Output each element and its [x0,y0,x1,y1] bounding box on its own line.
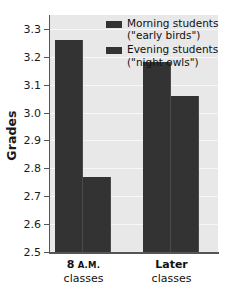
legend-swatch-icon-morning [106,21,122,28]
category-label-line2: classes [43,272,124,286]
legend-label-evening-main: Evening students [127,43,218,55]
y-axis-tick-label: 2.6 [11,218,41,231]
x-axis-line [49,252,219,254]
bar-chart: Grades 3.33.23.13.02.92.82.72.62.5 Morni… [0,0,233,304]
y-axis-tick-label: 2.9 [11,134,41,147]
legend-item-morning: Morning students ("early birds") [106,17,228,41]
legend-item-evening: Evening students ("night owls") [106,43,228,67]
legend: Morning students ("early birds") Evening… [106,17,228,70]
bar [171,96,199,252]
category-label-smallcaps: A.M. [75,260,101,270]
x-axis-category-label: 8 A.M.classes [43,258,124,286]
y-axis-tick [44,252,50,253]
y-axis-tick-label: 3.2 [11,50,41,63]
y-axis-tick-label: 2.7 [11,190,41,203]
bar [143,62,171,252]
legend-label-morning-sub: ("early birds") [127,29,218,41]
bar [55,40,83,252]
category-label-line1: 8 [67,258,75,271]
y-axis-tick-label: 2.8 [11,162,41,175]
y-axis-tick-label: 3.3 [11,22,41,35]
category-label-line1: Later [155,258,188,271]
legend-label-evening-sub: ("night owls") [127,56,218,68]
legend-label-evening: Evening students ("night owls") [127,43,218,67]
y-axis-tick-label: 2.5 [11,246,41,259]
legend-swatch-icon-evening [106,47,122,54]
bar [83,177,111,252]
category-label-line2: classes [131,272,212,286]
y-axis-tick-label: 3.0 [11,106,41,119]
legend-label-morning: Morning students ("early birds") [127,17,218,41]
legend-label-morning-main: Morning students [127,17,218,29]
y-axis-tick-label: 3.1 [11,78,41,91]
x-axis-category-label: Laterclasses [131,258,212,286]
